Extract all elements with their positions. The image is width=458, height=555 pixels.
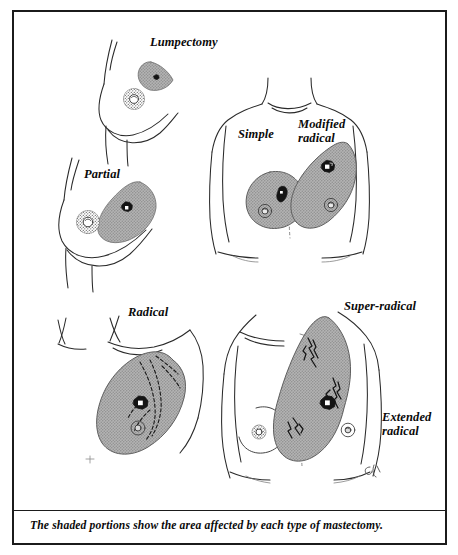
nipple-areola — [341, 423, 355, 437]
anatomical-drawings — [0, 0, 458, 555]
caption-divider — [14, 510, 445, 511]
figure-caption: The shaded portions show the area affect… — [30, 519, 430, 532]
partial-shaded-region — [98, 182, 156, 243]
panel-super-radical-torso — [222, 312, 382, 483]
mastectomy-illustration: Lumpectomy Partial Simple Modified radic… — [0, 0, 458, 555]
panel-radical — [58, 316, 203, 463]
label-simple: Simple — [238, 128, 274, 142]
label-modified-radical: Modified radical — [298, 118, 345, 145]
panel-lumpectomy — [99, 40, 178, 166]
super-radical-shaded-region — [273, 317, 350, 462]
artist-signature — [365, 465, 380, 477]
nipple-areola — [77, 211, 100, 234]
label-extended-radical: Extended radical — [382, 411, 431, 438]
nipple-areola — [124, 89, 145, 110]
modified-radical-shaded-region — [291, 142, 356, 228]
label-radical: Radical — [128, 306, 168, 320]
panel-simple-modified-torso — [210, 78, 370, 262]
label-lumpectomy: Lumpectomy — [150, 36, 218, 50]
nipple-areola — [252, 425, 266, 439]
label-super-radical: Super-radical — [344, 300, 416, 314]
label-partial: Partial — [84, 168, 120, 182]
